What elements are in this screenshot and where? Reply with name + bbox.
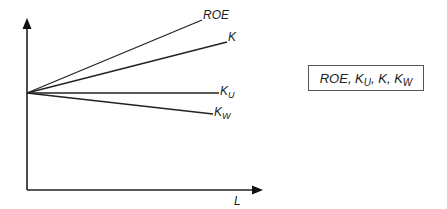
x-axis-label: L xyxy=(234,195,241,207)
label-k: K xyxy=(228,31,236,43)
legend-k: K xyxy=(378,71,387,86)
line-roe xyxy=(27,20,202,93)
label-kw-sub: W xyxy=(222,111,231,121)
x-axis-label-text: L xyxy=(234,194,241,208)
label-ku: KU xyxy=(220,85,235,97)
legend-text: ROE, KU, K, KW xyxy=(320,71,413,86)
legend-ku-sub: U xyxy=(364,77,371,88)
label-kw-main: K xyxy=(214,105,222,119)
label-k-text: K xyxy=(228,30,236,44)
legend-roe: ROE xyxy=(320,71,348,86)
y-axis-arrowhead-icon xyxy=(23,18,32,29)
line-kw xyxy=(27,93,213,114)
line-k xyxy=(27,42,227,93)
label-kw: KW xyxy=(214,106,231,118)
label-ku-sub: U xyxy=(228,90,235,100)
label-ku-main: K xyxy=(220,84,228,98)
legend-ku-main: K xyxy=(355,71,364,86)
legend-kw-sub: W xyxy=(403,77,412,88)
legend-kw-main: K xyxy=(394,71,403,86)
legend-box: ROE, KU, K, KW xyxy=(308,65,424,91)
diagram-svg xyxy=(0,0,447,209)
label-roe-text: ROE xyxy=(203,8,229,22)
x-axis-arrowhead-icon xyxy=(252,186,263,195)
label-roe: ROE xyxy=(203,9,229,21)
diagram-canvas: ROE K KU KW L ROE, KU, K, KW xyxy=(0,0,447,209)
